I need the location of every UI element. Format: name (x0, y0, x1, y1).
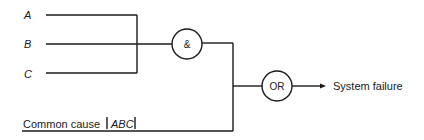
fault-tree-diagram: A B C & OR System failure Common cause A… (0, 0, 424, 140)
input-label-a: A (23, 9, 31, 21)
input-label-c: C (24, 68, 32, 80)
arrow-head-icon (320, 84, 326, 89)
or-gate-label: OR (270, 81, 285, 92)
input-label-b: B (24, 38, 31, 50)
output-label: System failure (333, 80, 403, 92)
common-cause-group: ABC (110, 118, 134, 130)
common-cause-label: Common cause (23, 118, 100, 130)
and-gate-label: & (184, 39, 191, 50)
